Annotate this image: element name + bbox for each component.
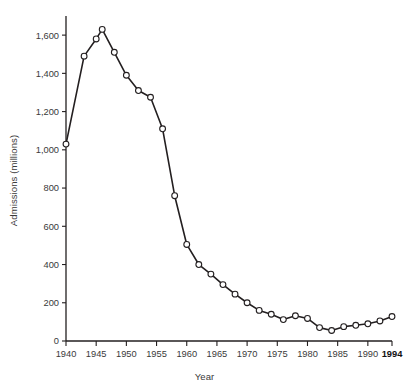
y-axis: 02004006008001,0001,2001,4001,600 xyxy=(36,16,66,346)
data-point-1946 xyxy=(99,26,105,32)
x-tick-label-1970: 1970 xyxy=(237,349,258,359)
y-tick-label-600: 600 xyxy=(43,222,59,232)
data-point-1984 xyxy=(329,328,335,334)
data-point-1950 xyxy=(123,72,129,78)
x-tick-label-1945: 1945 xyxy=(86,349,107,359)
x-axis: 1940194519501955196019651970197519801985… xyxy=(56,341,404,359)
data-point-1992 xyxy=(377,318,383,324)
y-tick-label-1400: 1,400 xyxy=(36,69,59,79)
data-point-1986 xyxy=(341,324,347,330)
admissions-line-chart: 02004006008001,0001,2001,4001,600 194019… xyxy=(0,0,409,390)
x-tick-label-1994: 1994 xyxy=(382,349,404,359)
data-point-1970 xyxy=(244,300,250,306)
y-tick-label-200: 200 xyxy=(43,298,59,308)
data-point-1982 xyxy=(317,325,323,331)
data-point-1940 xyxy=(63,141,69,147)
x-axis-tick-labels: 1940194519501955196019651970197519801985… xyxy=(56,349,404,359)
y-tick-label-1600: 1,600 xyxy=(36,31,59,41)
data-point-1948 xyxy=(111,49,117,55)
x-tick-label-1950: 1950 xyxy=(116,349,137,359)
chart-plot-area: 02004006008001,0001,2001,4001,600 194019… xyxy=(0,0,409,390)
y-tick-label-800: 800 xyxy=(43,183,59,193)
data-point-1988 xyxy=(353,322,359,328)
y-tick-label-1000: 1,000 xyxy=(36,145,59,155)
y-axis-title: Admissions (millions) xyxy=(8,121,19,241)
data-point-1966 xyxy=(220,282,226,288)
data-point-1952 xyxy=(136,88,142,94)
data-point-1968 xyxy=(232,291,238,297)
y-axis-tick-labels: 02004006008001,0001,2001,4001,600 xyxy=(36,31,59,347)
data-point-1978 xyxy=(293,313,299,319)
data-point-1945 xyxy=(93,36,99,42)
x-tick-label-1960: 1960 xyxy=(176,349,197,359)
data-point-1964 xyxy=(208,271,214,277)
data-point-1994 xyxy=(389,314,395,320)
data-point-1962 xyxy=(196,262,202,268)
y-tick-label-400: 400 xyxy=(43,260,59,270)
x-tick-label-1980: 1980 xyxy=(297,349,318,359)
data-point-1958 xyxy=(172,193,178,199)
data-point-1960 xyxy=(184,242,190,248)
x-tick-label-1965: 1965 xyxy=(207,349,228,359)
x-tick-label-1975: 1975 xyxy=(267,349,288,359)
x-axis-title: Year xyxy=(0,371,409,382)
y-tick-label-1200: 1,200 xyxy=(36,107,59,117)
y-tick-label-0: 0 xyxy=(54,336,59,346)
data-point-1954 xyxy=(148,94,154,100)
data-point-1956 xyxy=(160,126,166,132)
data-point-1980 xyxy=(305,316,311,322)
x-axis-ticks xyxy=(66,341,392,346)
x-tick-label-1985: 1985 xyxy=(327,349,348,359)
x-tick-label-1955: 1955 xyxy=(146,349,167,359)
data-line xyxy=(66,29,392,330)
data-point-1974 xyxy=(268,311,274,317)
data-markers xyxy=(63,26,395,333)
x-tick-label-1990: 1990 xyxy=(358,349,379,359)
data-series-admissions xyxy=(63,26,395,333)
x-tick-label-1940: 1940 xyxy=(56,349,77,359)
data-point-1943 xyxy=(81,53,87,59)
data-point-1990 xyxy=(365,321,371,327)
data-point-1972 xyxy=(256,308,262,314)
data-point-1976 xyxy=(280,317,286,323)
